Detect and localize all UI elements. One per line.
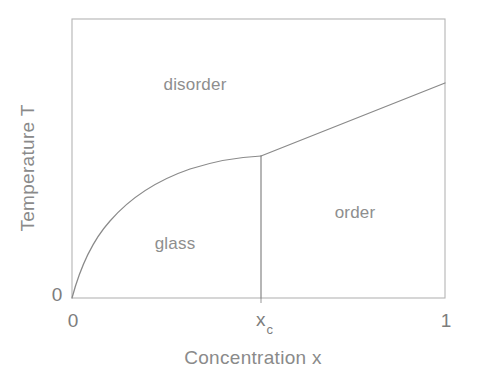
region-label-glass: glass [155, 234, 196, 254]
x-tick-label-0: 0 [68, 310, 79, 332]
x-tick-label-1: 1 [441, 310, 452, 332]
y-axis-title: Temperature T [17, 104, 39, 231]
phase-diagram-figure: disorder glass order 0 0 xc 1 Concentrat… [0, 0, 478, 379]
x-tick-xc-base: x [256, 309, 266, 330]
glass-transition-curve [72, 156, 261, 298]
region-label-order: order [335, 203, 376, 223]
y-tick-label-0: 0 [52, 284, 63, 306]
x-axis-title: Concentration x [184, 347, 322, 369]
x-tick-xc-subscript: c [267, 321, 274, 336]
x-tick-label-xc: xc [256, 309, 272, 334]
axes-frame [72, 19, 445, 298]
axes-box [72, 19, 445, 298]
region-label-disorder: disorder [163, 75, 226, 95]
order-disorder-line [261, 83, 445, 156]
